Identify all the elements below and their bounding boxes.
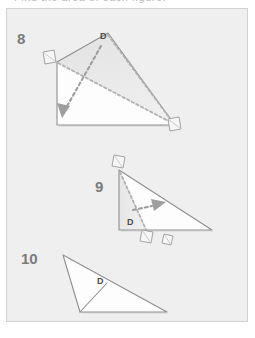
figure-number-9: 9 xyxy=(95,178,103,195)
worksheet-panel xyxy=(6,8,248,322)
figure-10-vertex-label-d: D xyxy=(97,276,104,286)
clipped-header-text-sliver: Find the area of each figure. xyxy=(0,0,255,5)
figure-number-8: 8 xyxy=(17,30,25,47)
figure-9-vertex-label-d: D xyxy=(127,217,134,227)
clipped-header-text: Find the area of each figure. xyxy=(14,0,166,3)
figure-8-vertex-label-d: D xyxy=(100,31,107,41)
figure-number-10: 10 xyxy=(21,250,38,267)
